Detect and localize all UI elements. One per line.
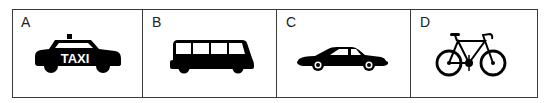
- bus-icon: [170, 40, 254, 74]
- taxi-sign-text: TAXI: [61, 51, 90, 66]
- option-a[interactable]: A TAXI: [12, 9, 142, 98]
- option-a-letter: A: [21, 14, 30, 30]
- option-b-letter: B: [152, 14, 161, 30]
- option-d-letter: D: [420, 14, 430, 30]
- option-c-letter: C: [286, 14, 296, 30]
- option-d[interactable]: D: [411, 9, 538, 98]
- car-icon: [297, 47, 389, 73]
- taxi-icon: TAXI: [33, 34, 123, 76]
- option-c[interactable]: C: [277, 9, 410, 98]
- bicycle-icon: [435, 33, 509, 79]
- option-b[interactable]: B: [143, 9, 276, 98]
